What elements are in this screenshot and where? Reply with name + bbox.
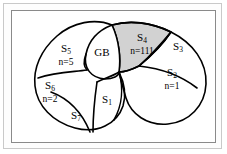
- label-s3-sub: 3: [179, 45, 183, 54]
- label-gb-base: GB: [94, 46, 109, 58]
- label-s5-sub: 5: [67, 47, 71, 56]
- label-s1-sub: 1: [108, 98, 112, 107]
- label-s6: S6 n=2: [43, 79, 58, 105]
- divider-s7-s1: [93, 82, 97, 132]
- label-s1: S1: [102, 93, 112, 107]
- svg-text:S7: S7: [71, 109, 81, 123]
- label-s3: S3: [173, 40, 183, 54]
- svg-text:S2: S2: [167, 66, 177, 80]
- label-s2-sub: 2: [173, 71, 177, 80]
- label-s4-sub: 4: [143, 36, 147, 45]
- label-s5: S5 n=5: [59, 42, 74, 68]
- svg-text:S5: S5: [61, 42, 71, 56]
- divider-s5-s6: [38, 70, 87, 78]
- label-s2-count: n=1: [165, 81, 180, 91]
- label-s4-count: n=111: [130, 46, 154, 56]
- svg-text:S1: S1: [102, 93, 112, 107]
- label-s6-count: n=2: [43, 94, 58, 104]
- organ-diagram: S4 n=111 S3 S2 n=1 GB S5 n=5: [11, 10, 216, 143]
- label-s2: S2 n=1: [165, 66, 180, 92]
- label-s7: S7: [71, 109, 81, 123]
- label-s6-sub: 6: [51, 84, 55, 93]
- label-s5-count: n=5: [59, 57, 74, 67]
- label-s7-sub: 7: [77, 114, 81, 123]
- label-gb: GB: [94, 46, 109, 58]
- figure-root: S4 n=111 S3 S2 n=1 GB S5 n=5: [0, 0, 227, 154]
- svg-text:S3: S3: [173, 40, 183, 54]
- svg-text:S6: S6: [45, 79, 55, 93]
